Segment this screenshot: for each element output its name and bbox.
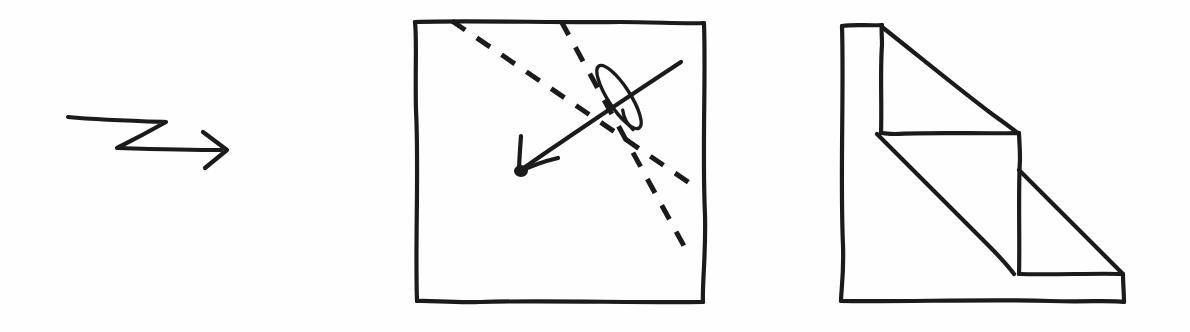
sketch-canvas (0, 0, 1190, 332)
wedge-edge-right (1123, 274, 1124, 302)
wedge-edge-bottom (841, 300, 1124, 302)
lowest-chamfer-diagonal (1019, 170, 1122, 273)
stepped-wedge-figure (0, 0, 1190, 332)
wedge-edge-left (841, 26, 843, 301)
wedge-step-riser-middle (1019, 133, 1020, 274)
wedge-step-tread-lower (1019, 274, 1123, 275)
stepped-wedge-outline (841, 25, 1124, 302)
wedge-step-riser-upper (881, 25, 882, 133)
lower-chamfer-diagonal (877, 134, 1014, 274)
upper-chamfer-diagonal (882, 27, 1018, 133)
wedge-step-tread-upper (881, 133, 1019, 134)
wedge-edge-top (842, 25, 882, 26)
stepped-wedge-chamfer-lines (877, 27, 1122, 274)
